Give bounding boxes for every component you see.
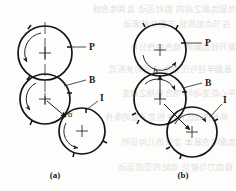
caption-a: (a) [50,170,61,180]
label-point-b: b [153,66,158,76]
caption-b: (b) [178,170,189,180]
panel-a: P B I a (a) [18,22,107,180]
panel-b: P B I b (b) [132,23,227,180]
label-point-a: a [68,109,73,119]
radius-arrow-base-a [47,101,66,117]
leader-line-base-a [64,80,86,86]
label-base-a: B [89,75,96,85]
label-idler-b: I [223,95,227,105]
center-mark-pitch-b [154,44,166,56]
rotation-arrow-base-a [26,83,36,110]
leader-line-base-b [183,83,202,88]
circle-idler-a-ticks [73,108,107,157]
leader-line-idler-a [86,101,98,110]
center-mark-pitch-a [39,47,51,59]
rotation-arrow-idler-a [64,123,78,148]
rotation-arrow-pitch-a [25,33,41,62]
center-mark-idler-a [76,125,88,137]
label-base-b: B [205,78,212,88]
diagram-svg: P B I a (a) [0,0,236,191]
leader-line-idler-b [210,104,222,117]
figure-container: 共轭齿廓之间的 相对运动 及其啮合线 在节点处两轮 节圆作纯滚动 渐开线齿廓的 … [0,0,236,191]
label-pitch-b: P [205,38,211,48]
label-pitch-a: P [89,42,95,52]
rotation-arrow-pitch-b [143,55,176,70]
label-idler-a: I [100,93,104,103]
circle-idler-b-ticks [166,119,218,159]
